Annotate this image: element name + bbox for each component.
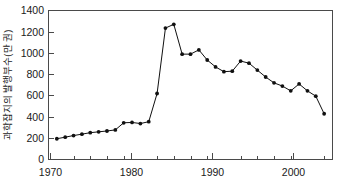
y-tick-label-1000: 1000: [21, 47, 45, 59]
data-point: [164, 26, 168, 30]
y-axis-title: 과학잡지의 발행부수(만 권): [2, 30, 13, 141]
x-tick-label-1970: 1970: [39, 166, 63, 178]
data-point: [247, 61, 251, 65]
data-point: [230, 69, 234, 73]
data-point: [172, 22, 176, 26]
y-tick-label-600: 600: [26, 89, 44, 101]
data-point: [255, 68, 259, 72]
data-point: [147, 120, 151, 124]
data-point: [88, 131, 92, 135]
data-point: [214, 65, 218, 69]
line-chart: 0 200 400 600 800 1000 1200 1400 과학잡지의 발…: [0, 0, 350, 185]
data-point: [264, 75, 268, 79]
data-point: [55, 137, 59, 141]
chart-figure: 0 200 400 600 800 1000 1200 1400 과학잡지의 발…: [0, 0, 350, 185]
y-tick-label-800: 800: [26, 68, 44, 80]
y-tick-label-400: 400: [26, 111, 44, 123]
data-point: [314, 94, 318, 98]
x-tick-label-2000: 2000: [282, 166, 306, 178]
data-point: [306, 89, 310, 93]
data-point: [322, 112, 326, 116]
data-point: [197, 48, 201, 52]
y-tick-label-1400: 1400: [21, 4, 45, 16]
data-point: [155, 92, 159, 96]
data-point: [280, 84, 284, 88]
data-point: [222, 70, 226, 74]
data-point: [105, 129, 109, 133]
data-point: [289, 89, 293, 93]
data-point: [239, 59, 243, 63]
data-point: [138, 122, 142, 126]
data-point: [297, 82, 301, 86]
data-point: [180, 52, 184, 56]
data-point: [205, 58, 209, 62]
x-tick-label-1990: 1990: [201, 166, 225, 178]
x-tick-label-1980: 1980: [120, 166, 144, 178]
data-point: [80, 132, 84, 136]
data-point: [130, 121, 134, 125]
y-tick-label-1200: 1200: [21, 26, 45, 38]
data-point: [122, 121, 126, 125]
data-point: [272, 81, 276, 85]
y-tick-label-0: 0: [38, 153, 44, 165]
data-point: [63, 135, 67, 139]
data-point: [97, 130, 101, 134]
data-point: [72, 134, 76, 138]
data-point: [189, 52, 193, 56]
data-point: [113, 128, 117, 132]
y-tick-label-200: 200: [26, 132, 44, 144]
